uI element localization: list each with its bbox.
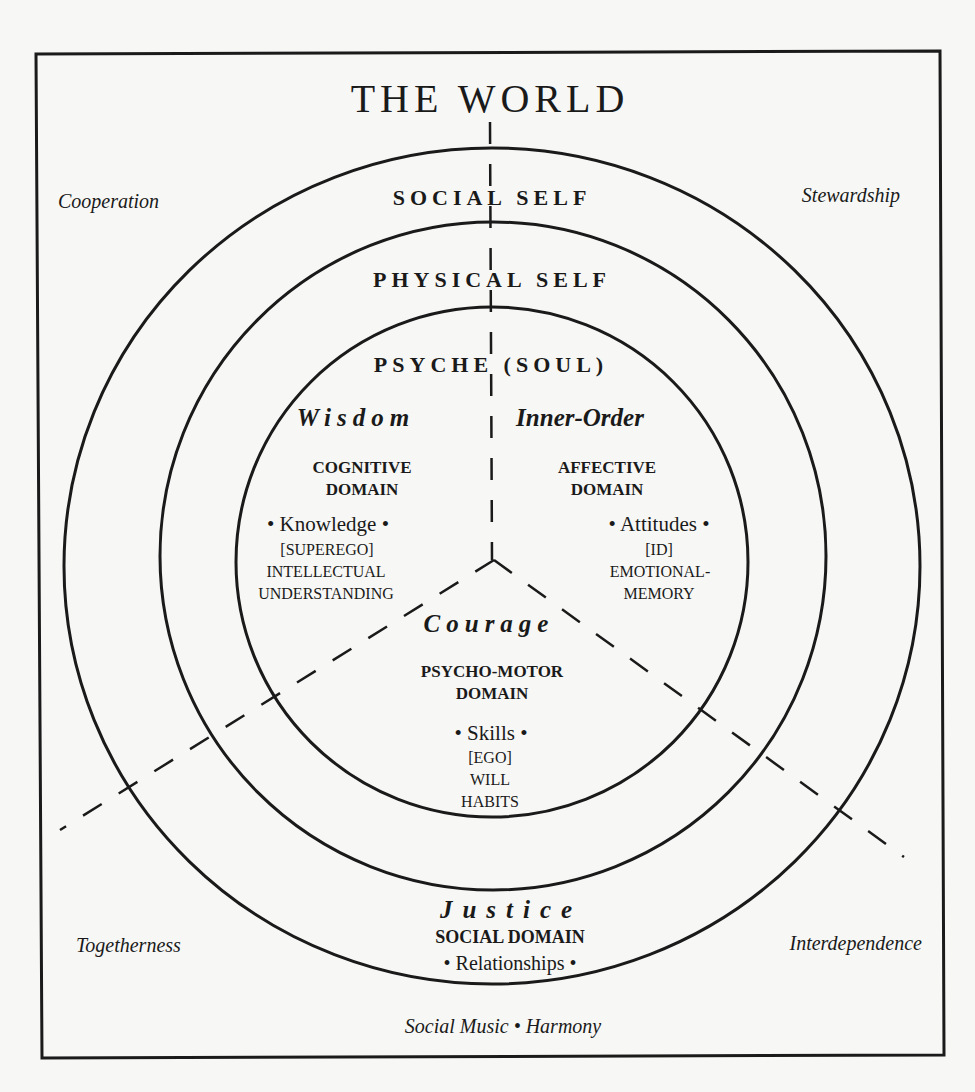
world-diagram: THE WORLD SOCIAL SELF PHYSICAL SELF PSYC…	[0, 0, 975, 1092]
affective-sub-emotional: EMOTIONAL-	[610, 563, 710, 580]
cognitive-domain-line2: DOMAIN	[326, 480, 399, 499]
label-physical-self: PHYSICAL SELF	[373, 267, 611, 292]
psychomotor-sub-ego: [EGO]	[468, 749, 512, 766]
affective-item-attitudes: • Attitudes •	[608, 512, 709, 536]
label-psyche-soul: PSYCHE (SOUL)	[374, 352, 608, 377]
virtue-wisdom: Wisdom	[297, 404, 415, 431]
cognitive-sub-superego: [SUPEREGO]	[280, 541, 373, 558]
label-interdependence: Interdependence	[788, 932, 922, 955]
sector-social: Justice SOCIAL DOMAIN • Relationships •	[435, 896, 585, 975]
psychomotor-domain-line1: PSYCHO-MOTOR	[421, 662, 564, 681]
affective-sub-id: [ID]	[645, 541, 673, 558]
sector-cognitive: Wisdom COGNITIVE DOMAIN • Knowledge • [S…	[258, 404, 415, 602]
title-the-world: THE WORLD	[351, 76, 630, 121]
virtue-inner-order: Inner-Order	[515, 404, 644, 431]
cognitive-sub-understanding: UNDERSTANDING	[258, 585, 394, 602]
label-social-music-harmony: Social Music • Harmony	[405, 1015, 602, 1038]
psychomotor-sub-habits: HABITS	[461, 793, 519, 810]
label-cooperation: Cooperation	[58, 190, 159, 213]
psychomotor-sub-will: WILL	[470, 771, 510, 788]
cognitive-sub-intellectual: INTELLECTUAL	[266, 563, 385, 580]
cognitive-item-knowledge: • Knowledge •	[267, 512, 389, 536]
social-domain-label: SOCIAL DOMAIN	[435, 927, 585, 947]
lower-right-divider-dashed	[494, 560, 904, 857]
virtue-courage: Courage	[424, 610, 555, 637]
social-item-relationships: • Relationships •	[444, 952, 577, 975]
label-stewardship: Stewardship	[802, 184, 900, 207]
label-togetherness: Togetherness	[76, 934, 181, 957]
psychomotor-domain-line2: DOMAIN	[456, 684, 529, 703]
sector-affective: Inner-Order AFFECTIVE DOMAIN • Attitudes…	[515, 404, 710, 602]
virtue-justice: Justice	[439, 896, 582, 923]
sector-psychomotor: Courage PSYCHO-MOTOR DOMAIN • Skills • […	[421, 610, 564, 810]
affective-sub-memory: MEMORY	[623, 585, 695, 602]
label-social-self: SOCIAL SELF	[393, 185, 592, 210]
psychomotor-item-skills: • Skills •	[454, 721, 527, 745]
cognitive-domain-line1: COGNITIVE	[312, 458, 411, 477]
affective-domain-line2: DOMAIN	[571, 480, 644, 499]
affective-domain-line1: AFFECTIVE	[558, 458, 656, 477]
